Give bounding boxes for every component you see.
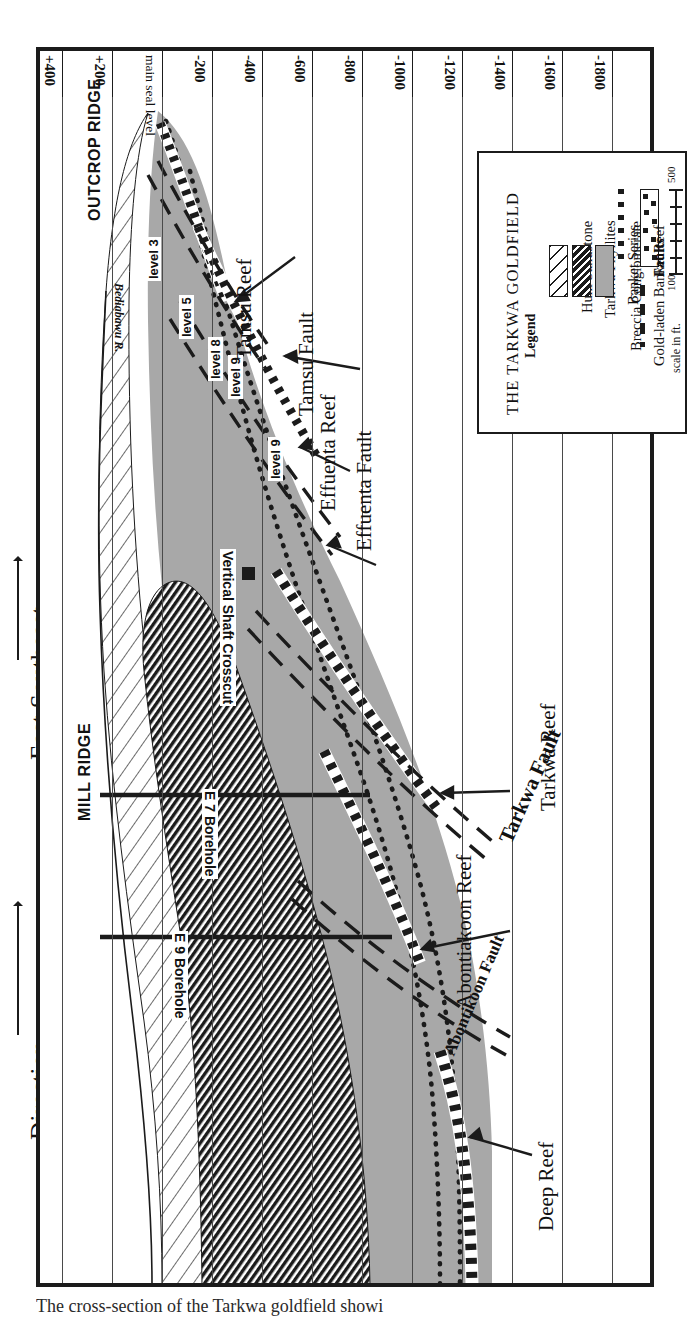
legend-swatch-tarkwa-phyllites — [572, 245, 591, 297]
axis-tick — [112, 51, 113, 97]
effuenta-reef-label: Effuenta Reef — [316, 394, 341, 511]
mill-ridge-label: MILL RIDGE — [76, 723, 94, 821]
axis-tick — [512, 51, 513, 97]
legend-swatch-huni-sandstone — [549, 245, 568, 297]
axis-tick — [212, 51, 213, 97]
axis-tick — [262, 51, 263, 97]
elev-label-m1200: -1200 — [441, 55, 458, 90]
elev-label-m1800: -1800 — [591, 55, 608, 90]
vertical-shaft-crosscut-label: Vertical Shaft Crosscut — [220, 549, 236, 706]
axis-tick — [462, 51, 463, 97]
scale-max-label: 500 — [665, 167, 677, 184]
elev-label-m600: -600 — [291, 55, 308, 83]
legend-swatch-breccia-conglomerate — [618, 189, 624, 265]
gridline-m1200 — [462, 51, 463, 1283]
gridline-m400 — [262, 51, 263, 1283]
gridline-m1000 — [412, 51, 413, 1283]
axis-tick — [162, 51, 163, 97]
elev-label-m1400: -1400 — [491, 55, 508, 90]
figure-caption: The cross-section of the Tarkwa goldfiel… — [36, 1296, 654, 1318]
elev-label-m1000: -1000 — [391, 55, 408, 90]
cross-section-frame: +400 +200 main seal level -200 -400 -600… — [36, 47, 654, 1287]
level-9-label-b: level 9 — [268, 437, 283, 481]
axis-tick — [612, 51, 613, 97]
outcrop-ridge-label: OUTCROP RIDGE — [86, 78, 104, 221]
level-9-label-a: level 9 — [228, 355, 243, 399]
elev-label-m200: -200 — [191, 55, 208, 83]
legend-label-faults: Faults — [651, 238, 668, 277]
e7-borehole-label: E 7 Borehole — [202, 789, 218, 879]
level-8-label: level 8 — [208, 337, 223, 381]
axis-tick — [362, 51, 363, 97]
tamsu-reef-label: Tamsu Reef — [232, 258, 257, 359]
elev-label-m400: -400 — [241, 55, 258, 83]
gridline-m800 — [362, 51, 363, 1283]
gridline-200 — [112, 51, 113, 1283]
axis-tick — [412, 51, 413, 97]
vertical-shaft-marker — [242, 567, 255, 580]
legend-swatch-banket-series — [595, 245, 614, 297]
gridline-m600 — [312, 51, 313, 1283]
elev-label-400: +400 — [41, 55, 58, 86]
gridline-0 — [162, 51, 163, 1283]
river-label: Bediabawu R. — [111, 283, 126, 352]
legend-box: THE TARKWA GOLDFIELD Legend Huni Sandsto… — [477, 151, 687, 434]
legend-title: THE TARKWA GOLDFIELD — [503, 192, 523, 415]
axis-tick — [562, 51, 563, 97]
elev-label-m1600: -1600 — [541, 55, 558, 90]
deep-reef-label: Deep Reef — [534, 1142, 559, 1231]
gridline-m200 — [212, 51, 213, 1283]
axis-tick — [312, 51, 313, 97]
level-5-label: level 5 — [179, 295, 194, 339]
legend-subtitle: Legend — [523, 314, 539, 358]
axis-tick — [62, 51, 63, 97]
legend-swatch-faults — [640, 285, 645, 347]
elev-label-mainseal: main seal level — [142, 55, 158, 136]
elev-label-m800: -800 — [341, 55, 358, 83]
e9-borehole-label: E 9 Borehole — [172, 931, 188, 1021]
east-southeast-arrow-icon — [17, 560, 19, 660]
level-3-label: level 3 — [146, 237, 161, 281]
effuenta-fault-label: Effuenta Fault — [352, 431, 377, 551]
gridline-400 — [62, 51, 63, 1283]
direction-arrow-icon — [17, 905, 19, 1035]
scale-bar — [669, 189, 683, 275]
scale-min-label: 100 — [665, 275, 677, 292]
scale-caption: scale in ft. — [669, 323, 684, 373]
